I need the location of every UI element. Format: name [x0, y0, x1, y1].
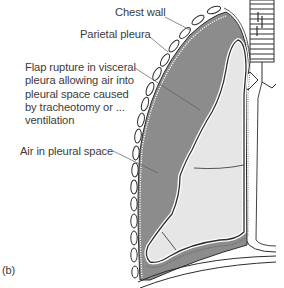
label-parietal-pleura: Parietal pleura — [80, 28, 151, 41]
panel-label: (b) — [2, 264, 15, 277]
label-air-in-pleural-space: Air in pleural space — [20, 145, 113, 158]
label-chest-wall: Chest wall — [115, 6, 166, 19]
label-flap-rupture: Flap rupture in visceral pleura allowing… — [25, 61, 150, 127]
pneumothorax-diagram — [0, 0, 284, 288]
